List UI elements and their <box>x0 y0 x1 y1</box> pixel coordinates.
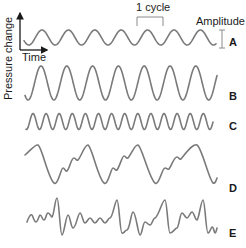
sound-wave-diagram: Time Pressure change 1 cycle Amplitude A… <box>0 0 246 248</box>
wave-c <box>26 114 213 130</box>
wave-e-label: E <box>229 227 236 239</box>
wave-d-label: D <box>229 182 237 194</box>
cycle-annotation: 1 cycle <box>136 1 170 26</box>
wave-c-label: C <box>229 120 237 132</box>
cycle-bracket <box>137 17 163 26</box>
wave-b <box>25 66 217 100</box>
y-axis-label: Pressure change <box>2 17 14 100</box>
axes: Time Pressure change <box>2 13 47 100</box>
x-axis-label: Time <box>22 51 46 63</box>
wave-a <box>24 30 216 45</box>
amplitude-bar <box>219 30 225 48</box>
wave-b-label: B <box>229 90 237 102</box>
cycle-label: 1 cycle <box>136 1 170 13</box>
wave-d <box>25 145 217 184</box>
wave-a-label: A <box>229 36 237 48</box>
amplitude-label: Amplitude <box>196 15 245 27</box>
wave-e <box>27 198 217 235</box>
